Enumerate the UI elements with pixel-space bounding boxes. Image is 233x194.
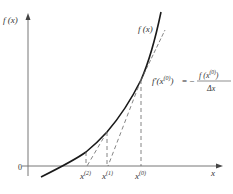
svg-text:= −: = −	[182, 76, 194, 86]
svg-text:f (x(0)): f (x(0))	[199, 69, 219, 80]
tick-x2: x(2)	[79, 170, 91, 181]
origin-label: 0	[18, 163, 22, 172]
tangent-line	[141, 30, 165, 80]
tick-x1: x(1)	[101, 170, 113, 181]
curve-label: f (x)	[138, 24, 153, 34]
function-curve	[41, 12, 161, 177]
svg-text:Δx: Δx	[206, 84, 216, 93]
tick-x0: x(0)	[134, 170, 146, 181]
y-axis-label: f (x)	[3, 15, 18, 25]
diagram-canvas: f (x) 0 x f (x) f′(x(0)) = − f (x(0)) Δx…	[0, 0, 233, 194]
slope-line-0	[108, 80, 141, 166]
svg-text:f′(x(0)): f′(x(0))	[152, 75, 173, 86]
x-axis-label: x	[210, 168, 215, 178]
x-axis-arrow-icon	[216, 164, 223, 169]
derivative-formula: f′(x(0)) = − f (x(0)) Δx	[152, 69, 231, 93]
y-axis-arrow-icon	[26, 13, 31, 20]
